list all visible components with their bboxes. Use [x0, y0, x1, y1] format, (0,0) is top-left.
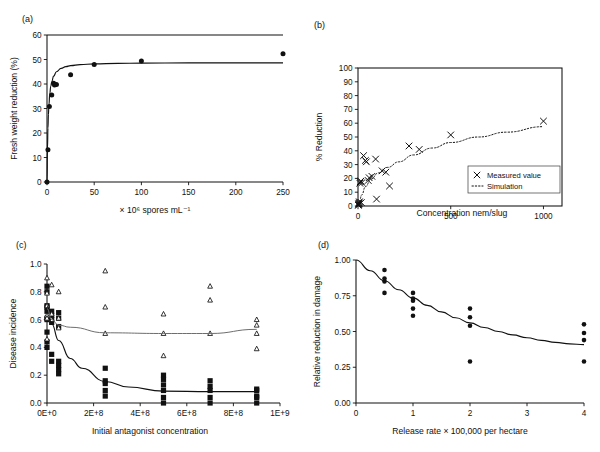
- panel-d: (d) 012340.000.250.500.751.00 Release ra…: [300, 226, 600, 452]
- ytick-label: 10: [32, 154, 42, 163]
- data-point: [208, 400, 213, 405]
- data-point: [54, 82, 59, 87]
- xtick-label: 0: [356, 212, 361, 221]
- data-point: [582, 359, 587, 364]
- ytick-label: 0.00: [335, 399, 351, 408]
- data-point: [416, 146, 423, 153]
- data-point: [254, 331, 259, 336]
- data-point: [406, 143, 413, 150]
- xtick-label: 1E+9: [270, 409, 290, 418]
- xtick-label: 2: [468, 409, 473, 418]
- panel-b-legend: Measured valueSimulation: [468, 166, 560, 193]
- ytick-label: 0.8: [30, 288, 42, 297]
- panel-b-yaxis-label: % Reduction: [314, 112, 324, 161]
- series-curve: [47, 63, 283, 182]
- data-point: [468, 359, 473, 364]
- ytick-label: 0.75: [335, 292, 351, 301]
- data-point: [49, 282, 54, 287]
- data-point: [45, 336, 50, 341]
- data-point: [208, 395, 213, 400]
- ytick-label: 0: [348, 202, 353, 211]
- panel-c: (c) 0E+02E+84E+86E+88E+81E+90.00.20.40.6…: [0, 226, 300, 452]
- data-point: [208, 378, 213, 383]
- ytick-label: 80: [343, 92, 353, 101]
- panel-c-xaxis-label: Initial antagonist concentration: [92, 426, 208, 436]
- data-point: [103, 304, 108, 309]
- data-point: [56, 289, 61, 294]
- data-point: [254, 346, 259, 351]
- data-point: [382, 268, 387, 273]
- xtick-label: 3: [525, 409, 530, 418]
- legend-label: Simulation: [487, 182, 522, 191]
- ytick-label: 40: [32, 80, 42, 89]
- xtick-label: 50: [90, 188, 100, 197]
- panel-d-label: (d): [318, 240, 329, 250]
- xtick-label: 1: [411, 409, 416, 418]
- xtick-label: 0: [354, 409, 359, 418]
- data-point: [254, 400, 259, 405]
- panel-b: (b) 050010000102030405060708090100 Conce…: [300, 0, 600, 226]
- data-point: [161, 353, 166, 358]
- ytick-label: 10: [343, 188, 353, 197]
- ytick-label: 20: [32, 129, 42, 138]
- xtick-label: 250: [276, 188, 290, 197]
- data-point: [411, 306, 416, 311]
- data-point: [103, 388, 108, 393]
- xtick-label: 0E+0: [37, 409, 57, 418]
- data-point: [44, 345, 49, 350]
- data-point: [103, 366, 108, 371]
- panel-d-svg: (d) 012340.000.250.500.751.00 Release ra…: [300, 226, 600, 452]
- data-point: [45, 275, 50, 280]
- data-point: [49, 359, 54, 364]
- ytick-label: 30: [32, 105, 42, 114]
- data-point: [411, 298, 416, 303]
- panel-a-xaxis-label: × 10⁶ spores mL⁻¹: [120, 205, 191, 215]
- series-curve: [356, 260, 584, 345]
- ytick-label: 0.2: [30, 371, 42, 380]
- data-point: [103, 268, 108, 273]
- data-point: [386, 183, 393, 190]
- ytick-label: 0.0: [30, 399, 42, 408]
- xtick-label: 200: [229, 188, 243, 197]
- xtick-label: 0: [45, 188, 50, 197]
- panel-a-label: (a): [22, 14, 33, 24]
- data-point: [161, 388, 166, 393]
- data-point: [161, 400, 166, 405]
- data-point: [540, 118, 547, 125]
- xtick-label: 2E+8: [84, 409, 104, 418]
- data-point: [49, 352, 54, 357]
- panel-c-label: (c): [16, 240, 27, 250]
- data-point: [44, 284, 49, 289]
- data-point: [582, 331, 587, 336]
- ytick-label: 60: [343, 119, 353, 128]
- panel-a-svg: (a) 0501001502002500102030405060 × 10⁶ s…: [0, 0, 300, 226]
- panel-a: (a) 0501001502002500102030405060 × 10⁶ s…: [0, 0, 300, 226]
- xtick-label: 150: [182, 188, 196, 197]
- data-point: [411, 291, 416, 296]
- data-point: [208, 284, 213, 289]
- ytick-label: 100: [339, 64, 353, 73]
- data-point: [44, 330, 49, 335]
- ytick-label: 60: [32, 31, 42, 40]
- ytick-label: 20: [343, 174, 353, 183]
- ytick-label: 0.25: [335, 363, 351, 372]
- panel-b-label: (b): [314, 20, 325, 30]
- xtick-label: 6E+8: [177, 409, 197, 418]
- data-point: [582, 322, 587, 327]
- data-point: [447, 132, 454, 139]
- data-point: [254, 323, 259, 328]
- data-point: [254, 395, 259, 400]
- panel-c-svg: (c) 0E+02E+84E+86E+88E+81E+90.00.20.40.6…: [0, 226, 300, 452]
- data-point: [161, 377, 166, 382]
- data-point: [582, 338, 587, 343]
- ytick-label: 50: [32, 56, 42, 65]
- data-point: [56, 310, 61, 315]
- data-point: [468, 323, 473, 328]
- data-point: [56, 371, 61, 376]
- data-point: [468, 306, 473, 311]
- data-point: [411, 313, 416, 318]
- ytick-label: 0.6: [30, 316, 42, 325]
- scientific-figure: (a) 0501001502002500102030405060 × 10⁶ s…: [0, 0, 600, 452]
- data-point: [161, 311, 166, 316]
- axis-lines: [356, 260, 584, 403]
